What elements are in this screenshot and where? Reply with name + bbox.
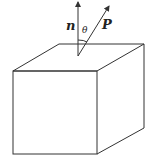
cube-diagram bbox=[0, 0, 152, 166]
angle-arc bbox=[78, 40, 87, 42]
p-label: P bbox=[102, 17, 112, 32]
cube-front-face bbox=[13, 71, 97, 154]
cube-right-face bbox=[97, 44, 144, 154]
normal-label: n bbox=[66, 18, 75, 33]
theta-label: θ bbox=[82, 25, 87, 35]
